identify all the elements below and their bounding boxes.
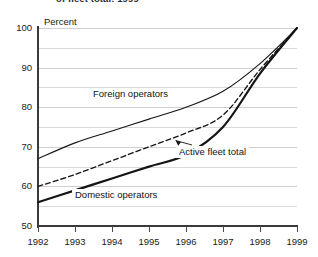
y-axis-title: Percent [44, 16, 77, 27]
gridline-95 [38, 48, 297, 49]
x-tick-1999: 1999 [277, 236, 317, 247]
x-tick-1995: 1995 [129, 236, 169, 247]
x-tickmark-1996 [186, 227, 187, 232]
gridline-90 [38, 68, 297, 69]
gridline-70 [38, 147, 297, 148]
clipped-title-strip: of fleet total: 1999 [0, 0, 318, 9]
x-tick-1997: 1997 [203, 236, 243, 247]
y-tick-70: 70 [6, 141, 32, 152]
gridline-75 [38, 127, 297, 128]
y-tick-100: 100 [6, 22, 32, 33]
x-tick-1994: 1994 [92, 236, 132, 247]
y-tick-80: 80 [6, 101, 32, 112]
x-tick-1996: 1996 [166, 236, 206, 247]
gridline-65 [38, 167, 297, 168]
x-tickmark-1992 [38, 227, 39, 232]
x-tick-1998: 1998 [240, 236, 280, 247]
figure-title: of fleet total: 1999 [56, 0, 139, 4]
gridline-55 [38, 206, 297, 207]
y-tick-60: 60 [6, 180, 32, 191]
x-tickmark-1994 [112, 227, 113, 232]
x-tickmark-1999 [297, 227, 298, 232]
x-tickmark-1997 [223, 227, 224, 232]
x-tickmark-1998 [260, 227, 261, 232]
y-axis-line [37, 26, 39, 228]
series-label-active-fleet-total: Active fleet total [176, 146, 249, 158]
x-tick-1993: 1993 [55, 236, 95, 247]
x-tickmark-1995 [149, 227, 150, 232]
gridline-100 [38, 28, 297, 29]
x-tickmark-1993 [75, 227, 76, 232]
x-axis-line [38, 225, 298, 227]
gridline-80 [38, 107, 297, 108]
gridline-60 [38, 186, 297, 187]
x-tick-1992: 1992 [18, 236, 58, 247]
y-tick-90: 90 [6, 62, 32, 73]
chart-figure: of fleet total: 1999 Percent 50607080901… [0, 0, 318, 257]
series-label-foreign-operators: Foreign operators [90, 88, 171, 100]
series-label-domestic-operators: Domestic operators [72, 189, 160, 201]
y-tick-50: 50 [6, 220, 32, 231]
